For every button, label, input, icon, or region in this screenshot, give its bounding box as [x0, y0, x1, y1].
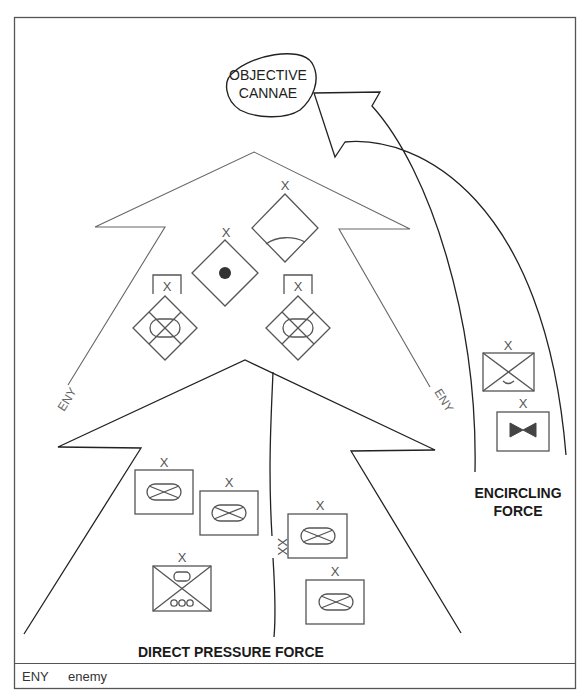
- echelon-x: X: [504, 338, 513, 353]
- echelon-x: X: [222, 225, 231, 240]
- echelon-x: X: [281, 178, 290, 193]
- echelon-x: X: [178, 550, 187, 565]
- echelon-x: X: [225, 475, 234, 490]
- echelon-x: X: [316, 498, 325, 513]
- echelon-x: X: [160, 455, 169, 470]
- encircling-arrow: [314, 92, 566, 472]
- objective-cannae: OBJECTIVE CANNAE: [227, 54, 316, 117]
- eny-label-right: ENY: [431, 386, 456, 414]
- direct-pressure-arrow: [24, 360, 461, 634]
- direct-pressure-force-label: DIRECT PRESSURE FORCE: [138, 644, 324, 660]
- echelon-x: X: [331, 564, 340, 579]
- friendly-unit-armored-infantry-4: [306, 580, 364, 624]
- echelon-x: X: [163, 279, 172, 294]
- echelon-x: X: [294, 279, 303, 294]
- friendly-unit-armored-infantry-3: [288, 514, 347, 558]
- enemy-unit-diamond-arc: [252, 194, 318, 262]
- division-boundary: [270, 372, 275, 637]
- enemy-arrow: [68, 152, 430, 387]
- friendly-unit-armored-wheeled: [153, 566, 211, 611]
- objective-line1: OBJECTIVE: [229, 67, 307, 83]
- encircling-force-label-1: ENCIRCLING: [474, 485, 561, 501]
- cannae-encirclement-diagram: OBJECTIVE CANNAE ENY ENY XX X X X: [0, 0, 586, 696]
- friendly-unit-airborne-infantry: [483, 353, 534, 391]
- legend-key: ENY: [22, 669, 49, 684]
- encircling-force-label-2: FORCE: [494, 503, 543, 519]
- legend-value: enemy: [68, 669, 108, 684]
- friendly-unit-engineer: [497, 412, 549, 451]
- enemy-unit-diamond-dot: [192, 240, 258, 306]
- friendly-unit-armored-infantry-2: [200, 491, 258, 535]
- echelon-x: X: [519, 396, 528, 411]
- friendly-unit-armored-infantry-1: [135, 470, 193, 514]
- eny-label-left: ENY: [55, 385, 80, 413]
- objective-line2: CANNAE: [239, 85, 297, 101]
